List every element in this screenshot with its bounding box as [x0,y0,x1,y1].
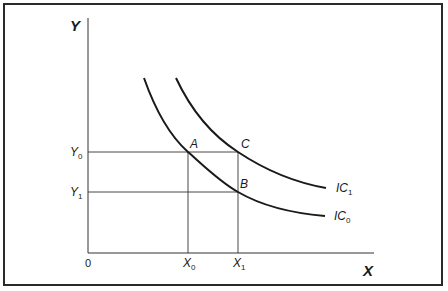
x-tick-x0: X0 [182,256,196,272]
point-c-label: C [241,137,250,151]
x-axis-label: X [362,262,374,279]
curve-ic1-label: IC1 [336,181,353,197]
curve-ic0 [144,78,325,216]
point-a-label: A [189,137,198,151]
x-tick-x1: X1 [232,256,246,272]
point-b-label: B [240,177,248,191]
indifference-curve-diagram: Y X 0 Y0 Y1 X0 X1 A B C IC1 IC0 [0,0,448,291]
curve-ic1 [176,78,326,188]
y-axis-label: Y [70,17,82,34]
origin-label: 0 [85,257,91,269]
curve-ic0-label: IC0 [334,209,351,225]
y-tick-y0: Y0 [70,145,83,161]
y-tick-y1: Y1 [70,185,83,201]
